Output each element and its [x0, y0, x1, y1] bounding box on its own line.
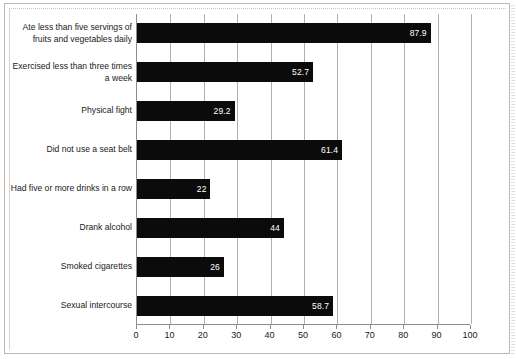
- x-tick-mark: [336, 325, 337, 329]
- gridline: [237, 14, 238, 324]
- x-tick-label: 50: [298, 330, 308, 341]
- bar: [137, 218, 284, 238]
- x-tick-mark: [403, 325, 404, 329]
- bar-value-label: 44: [270, 223, 280, 233]
- x-tick-mark: [236, 325, 237, 329]
- x-tick-label: 100: [462, 330, 477, 341]
- gridline: [170, 14, 171, 324]
- category-label: Ate less than five servings of fruits an…: [6, 22, 132, 44]
- x-tick-mark: [303, 325, 304, 329]
- bar-row: 29.2: [137, 101, 471, 121]
- bar-value-label: 26: [210, 262, 220, 272]
- gridline: [337, 14, 338, 324]
- category-label: Smoked cigarettes: [6, 261, 132, 272]
- gridline: [371, 14, 372, 324]
- bar-value-label: 52.7: [292, 67, 309, 77]
- x-tick-mark: [203, 325, 204, 329]
- bar-value-label: 29.2: [214, 106, 231, 116]
- x-tick-mark: [270, 325, 271, 329]
- gridline: [471, 14, 472, 324]
- gridline: [438, 14, 439, 324]
- bar-chart: Ate less than five servings of fruits an…: [0, 0, 516, 359]
- bar: [137, 62, 313, 82]
- gridline: [271, 14, 272, 324]
- x-tick-label: 0: [133, 330, 138, 341]
- category-label: Did not use a seat belt: [6, 144, 132, 155]
- bar: [137, 140, 342, 160]
- bar-row: 58.7: [137, 296, 471, 316]
- plot-area: 87.952.729.261.422442658.7: [136, 14, 470, 325]
- x-tick-mark: [470, 325, 471, 329]
- bar-row: 52.7: [137, 62, 471, 82]
- gridline: [304, 14, 305, 324]
- gridline: [404, 14, 405, 324]
- x-tick-label: 70: [365, 330, 375, 341]
- bar-row: 22: [137, 179, 471, 199]
- category-label: Exercised less than three times a week: [6, 61, 132, 83]
- bar-row: 61.4: [137, 140, 471, 160]
- x-tick-label: 40: [265, 330, 275, 341]
- bar-value-label: 87.9: [410, 28, 427, 38]
- bar-value-label: 58.7: [312, 301, 329, 311]
- x-tick-label: 10: [164, 330, 174, 341]
- x-tick-label: 20: [198, 330, 208, 341]
- bar-row: 26: [137, 257, 471, 277]
- x-tick-mark: [136, 325, 137, 329]
- x-tick-mark: [437, 325, 438, 329]
- bar-row: 87.9: [137, 23, 471, 43]
- x-tick-label: 90: [432, 330, 442, 341]
- x-tick-mark: [169, 325, 170, 329]
- x-tick-label: 60: [331, 330, 341, 341]
- category-label: Had five or more drinks in a row: [6, 183, 132, 194]
- bar-value-label: 61.4: [321, 145, 338, 155]
- x-tick-label: 30: [231, 330, 241, 341]
- bar: [137, 296, 333, 316]
- bar-value-label: 22: [197, 184, 207, 194]
- category-label: Sexual intercourse: [6, 300, 132, 311]
- x-tick-label: 80: [398, 330, 408, 341]
- category-label: Physical fight: [6, 106, 132, 117]
- gridline: [204, 14, 205, 324]
- x-tick-mark: [370, 325, 371, 329]
- bar-row: 44: [137, 218, 471, 238]
- category-label: Drank alcohol: [6, 222, 132, 233]
- bar: [137, 23, 431, 43]
